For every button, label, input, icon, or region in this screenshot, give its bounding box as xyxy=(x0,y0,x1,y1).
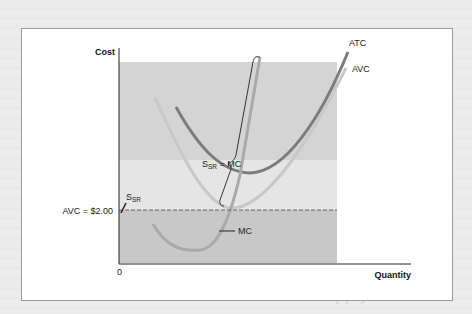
y-axis-label: Cost xyxy=(95,47,115,57)
band-upper xyxy=(119,62,337,160)
origin-label: 0 xyxy=(117,267,122,277)
mc-label: MC xyxy=(238,226,252,236)
avc-value-label: AVC = $2.00 xyxy=(62,206,113,216)
x-axis-label: Quantity xyxy=(374,270,411,280)
cost-curves-chart: Cost Quantity 0 ATC AVC MC AVC = $2.00 S… xyxy=(0,0,472,314)
ssr-mc-label: SSR = MC xyxy=(202,159,242,170)
atc-label: ATC xyxy=(349,38,367,48)
avc-label: AVC xyxy=(352,64,370,74)
